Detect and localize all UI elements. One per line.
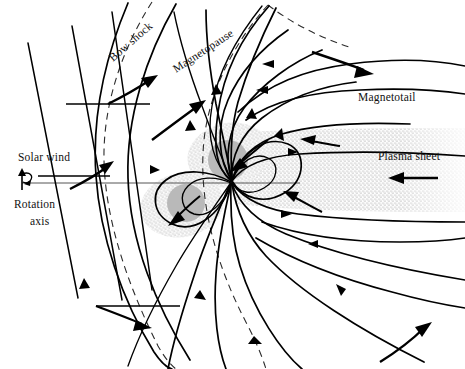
imf-line-2: [72, 26, 122, 300]
magnetotail-label: Magnetotail: [358, 91, 416, 104]
magnetotail-north-1: [246, 89, 465, 120]
dayside-tick-5: [150, 165, 160, 174]
flank-flow-arrow-bottom: [380, 322, 432, 362]
rotation-axis-label-line1: Rotation: [14, 198, 55, 210]
tail-tick-4: [262, 60, 274, 68]
magnetotail-north-2: [238, 60, 465, 112]
rotation-axis-symbol: [18, 168, 32, 190]
dayside-tick-1: [185, 120, 196, 131]
rotation-axis-label-line2: axis: [30, 215, 50, 227]
south-belt-core: [167, 184, 205, 222]
magnetopause-curve-flank: [268, 5, 352, 48]
sheath-tick-1: [79, 278, 90, 289]
magnetopause-label: Magnetopause: [171, 27, 236, 76]
south-tick-2: [194, 290, 206, 300]
magnetosphere-figure: Bow shock Magnetopause Magnetotail Plasm…: [0, 0, 465, 369]
south-tick-1: [248, 336, 262, 344]
plasma-sheet-fade: [236, 126, 465, 216]
magnetosphere-svg: Bow shock Magnetopause Magnetotail Plasm…: [0, 0, 465, 369]
bow-shock-crossing-arrow-lower: [96, 306, 152, 331]
rotation-axis-arrowhead: [18, 168, 26, 176]
tail-tick-5: [336, 284, 346, 296]
tail-tick-2: [308, 240, 318, 248]
imf-line-1: [28, 43, 78, 298]
plasma-sheet-region: [236, 126, 465, 216]
magnetotail-south-2: [256, 238, 465, 308]
plasma-sheet-label: Plasma sheet: [378, 150, 441, 162]
solar-wind-label: Solar wind: [18, 151, 70, 163]
magnetopause-crossing-arrow: [152, 100, 206, 140]
magnetotail-south-1: [262, 222, 465, 242]
solar-wind-arrow-lower: [70, 161, 114, 189]
